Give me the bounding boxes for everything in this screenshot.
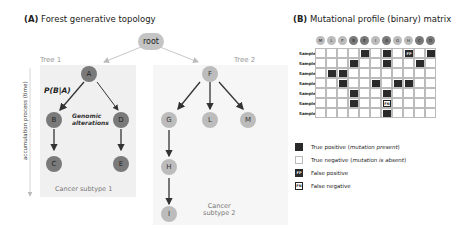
matrix-cell <box>414 98 425 108</box>
legend-swatch: FP <box>295 169 303 177</box>
row-label: Sample 2 <box>299 61 320 66</box>
matrix-cell <box>414 58 425 68</box>
matrix-cell <box>392 88 403 98</box>
matrix-cell <box>381 68 392 78</box>
matrix-cell <box>392 68 403 78</box>
true-positive-mark <box>416 60 424 67</box>
matrix-cell <box>337 108 348 118</box>
tree2-subtype-line2: subtype 2 <box>203 210 235 217</box>
legend-swatch <box>295 143 303 151</box>
tree2-subtype-label: Cancer subtype 2 <box>203 203 235 218</box>
matrix-cell <box>326 108 337 118</box>
column-header-e: E <box>360 36 369 45</box>
matrix-cell <box>392 58 403 68</box>
legend-swatch <box>295 156 303 164</box>
matrix-cell <box>337 88 348 98</box>
true-positive-mark <box>350 100 358 107</box>
legend-text: False positive <box>311 170 348 176</box>
matrix-cell <box>315 108 326 118</box>
true-positive-mark <box>350 60 358 67</box>
matrix-cell <box>392 108 403 118</box>
column-header-i: I <box>371 36 380 45</box>
matrix-cell <box>370 88 381 98</box>
node-f: F <box>202 66 218 82</box>
column-header-l: L <box>327 36 336 45</box>
legend-text: True negative (mutation is absent) <box>311 157 406 163</box>
true-positive-mark <box>328 70 336 77</box>
node-m: M <box>240 112 256 128</box>
false-negative-mark: FN <box>383 100 391 107</box>
matrix-cell: FP <box>403 48 414 58</box>
true-positive-mark <box>372 80 380 87</box>
matrix-cell <box>315 88 326 98</box>
matrix-cell <box>348 88 359 98</box>
node-e: E <box>113 156 129 172</box>
matrix-cell <box>392 78 403 88</box>
matrix-cell <box>381 48 392 58</box>
column-header-f: F <box>338 36 347 45</box>
matrix-cell <box>337 68 348 78</box>
matrix-cell <box>414 68 425 78</box>
matrix-cell <box>370 68 381 78</box>
matrix-cell <box>392 48 403 58</box>
matrix-cell <box>348 78 359 88</box>
matrix-cell <box>326 98 337 108</box>
matrix-cell <box>425 78 436 88</box>
matrix-cell <box>348 108 359 118</box>
matrix-cell <box>337 48 348 58</box>
legend-text: True positive (mutation present) <box>311 144 400 150</box>
true-positive-mark <box>361 50 369 57</box>
matrix-cell <box>370 58 381 68</box>
matrix-cell <box>414 108 425 118</box>
true-positive-mark <box>394 80 402 87</box>
matrix-cell <box>315 78 326 88</box>
panel-b-title: (B) Mutational profile (binary) matrix <box>293 14 451 24</box>
matrix-cell <box>337 98 348 108</box>
matrix-cell <box>392 98 403 108</box>
legend-text: False negative <box>311 183 351 189</box>
genomic-alterations-label: Genomic alterations <box>72 113 109 127</box>
row-label: Sample 1 <box>299 51 320 56</box>
node-c: C <box>46 156 62 172</box>
matrix-cell <box>403 78 414 88</box>
node-g: G <box>161 112 177 128</box>
true-positive-mark <box>383 60 391 67</box>
matrix-cell <box>359 108 370 118</box>
column-header-g: G <box>393 36 402 45</box>
matrix-cell <box>414 88 425 98</box>
column-header-b: B <box>349 36 358 45</box>
column-header-c: C <box>415 36 424 45</box>
matrix-cell <box>414 78 425 88</box>
edge-probability-label: P(B|A) <box>44 86 71 95</box>
matrix-cell <box>326 68 337 78</box>
true-positive-mark <box>427 50 435 57</box>
true-positive-mark <box>339 80 347 87</box>
legend-swatch: FN <box>295 182 303 190</box>
node-l: L <box>202 112 218 128</box>
row-label: Sample 6 <box>299 101 320 106</box>
matrix-cell <box>359 48 370 58</box>
true-positive-mark <box>383 50 391 57</box>
matrix-cell <box>359 78 370 88</box>
matrix-cell <box>337 78 348 88</box>
matrix-cell <box>337 58 348 68</box>
matrix-cell <box>370 108 381 118</box>
matrix-cell <box>326 88 337 98</box>
matrix-cell <box>348 48 359 58</box>
matrix-cell <box>403 68 414 78</box>
matrix-cell <box>359 88 370 98</box>
matrix-cell <box>370 98 381 108</box>
true-positive-mark <box>350 90 358 97</box>
matrix-cell <box>381 88 392 98</box>
true-positive-mark <box>405 80 413 87</box>
matrix-cell <box>425 88 436 98</box>
node-i: I <box>161 206 177 222</box>
matrix-cell <box>403 98 414 108</box>
node-h: H <box>161 159 177 175</box>
matrix-cell <box>315 68 326 78</box>
row-label: Sample 4 <box>299 81 320 86</box>
matrix-cell <box>381 78 392 88</box>
matrix-cell <box>326 48 337 58</box>
matrix-cell <box>370 78 381 88</box>
matrix-cell <box>359 68 370 78</box>
